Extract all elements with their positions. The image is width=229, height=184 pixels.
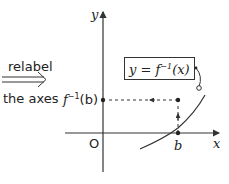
label-leader-line (196, 68, 200, 87)
y-axis-label: y (91, 8, 98, 21)
x-axis-label: x (213, 137, 220, 150)
f-inverse-b-label: f−1(b) (63, 93, 98, 106)
point-b-on-x-axis (176, 131, 180, 135)
relabel-label: relabel (8, 60, 53, 73)
the-axes-label: the axes (3, 92, 59, 105)
point-on-y-axis (101, 98, 105, 102)
point-on-curve (176, 98, 180, 102)
origin-label: O (89, 137, 99, 150)
curve-equation-label: y = f−1(x) (124, 57, 195, 80)
double-right-arrow-icon (2, 72, 46, 87)
inverse-curve (140, 95, 205, 149)
b-label: b (174, 139, 182, 152)
